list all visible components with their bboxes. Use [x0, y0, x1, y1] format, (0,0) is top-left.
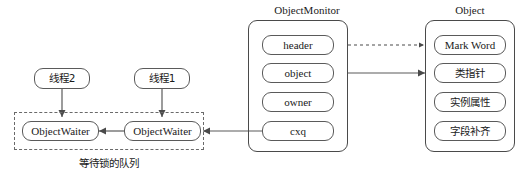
object-title: Object — [425, 4, 515, 16]
field-mark-word[interactable]: Mark Word — [434, 35, 506, 55]
field-padding[interactable]: 字段补齐 — [434, 121, 506, 141]
diagram-canvas: 线程2 线程1 ObjectWaiter ObjectWaiter 等待锁的队列… — [0, 0, 520, 177]
field-cxq-label: cxq — [290, 126, 306, 137]
node-objectwaiter-left-label: ObjectWaiter — [31, 126, 89, 137]
field-owner-label: owner — [284, 97, 312, 108]
field-cxq[interactable]: cxq — [262, 121, 334, 141]
field-instance-data[interactable]: 实例属性 — [434, 92, 506, 112]
node-thread-2-label: 线程2 — [49, 73, 76, 84]
field-class-pointer-label: 类指针 — [455, 68, 485, 79]
field-owner[interactable]: owner — [262, 92, 334, 112]
field-instance-data-label: 实例属性 — [450, 97, 490, 108]
field-header-label: header — [283, 40, 312, 51]
field-padding-label: 字段补齐 — [450, 126, 490, 137]
node-thread-1[interactable]: 线程1 — [134, 68, 190, 89]
field-class-pointer[interactable]: 类指针 — [434, 63, 506, 83]
field-object[interactable]: object — [262, 63, 334, 83]
node-objectwaiter-right-label: ObjectWaiter — [133, 126, 191, 137]
node-thread-1-label: 线程1 — [149, 73, 176, 84]
field-mark-word-label: Mark Word — [445, 40, 496, 51]
node-thread-2[interactable]: 线程2 — [34, 68, 90, 89]
node-objectwaiter-left[interactable]: ObjectWaiter — [22, 121, 99, 141]
objectmonitor-title: ObjectMonitor — [247, 4, 367, 16]
waiting-queue-caption: 等待锁的队列 — [14, 155, 204, 170]
field-header[interactable]: header — [262, 35, 334, 55]
field-object-label: object — [285, 68, 312, 79]
node-objectwaiter-right[interactable]: ObjectWaiter — [124, 121, 201, 141]
